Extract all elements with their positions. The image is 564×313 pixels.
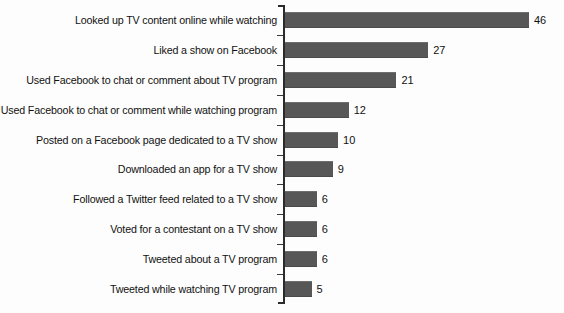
bar-row: Used Facebook to chat or comment about T… (0, 65, 564, 95)
bar-group: 5 (285, 281, 323, 297)
bar (285, 221, 317, 237)
bar (285, 251, 317, 267)
bar-row: Tweeted about a TV program6 (0, 244, 564, 274)
bar-group: 9 (285, 161, 344, 177)
bar (285, 281, 312, 297)
category-label: Voted for a contestant on a TV show (0, 223, 281, 235)
category-label: Posted on a Facebook page dedicated to a… (0, 134, 281, 146)
category-label: Tweeted about a TV program (0, 253, 281, 265)
bar-group: 12 (285, 102, 366, 118)
bar-value-label: 10 (343, 134, 355, 146)
bar (285, 161, 333, 177)
bar-value-label: 12 (354, 104, 366, 116)
bar-row: Downloaded an app for a TV show9 (0, 155, 564, 185)
bar-row: Followed a Twitter feed related to a TV … (0, 184, 564, 214)
bar-row: Voted for a contestant on a TV show6 (0, 214, 564, 244)
bar (285, 102, 349, 118)
bar-value-label: 21 (401, 74, 413, 86)
category-label: Tweeted while watching TV program (0, 283, 281, 295)
bar-value-label: 27 (433, 44, 445, 56)
bar-group: 46 (285, 12, 546, 28)
bar-group: 21 (285, 72, 414, 88)
bar-value-label: 46 (534, 14, 546, 26)
bar-value-label: 9 (338, 163, 344, 175)
bar-value-label: 6 (322, 223, 328, 235)
bar-row: Liked a show on Facebook27 (0, 35, 564, 65)
bar (285, 191, 317, 207)
bar (285, 72, 396, 88)
bar-value-label: 6 (322, 253, 328, 265)
bar-group: 6 (285, 221, 328, 237)
bar-group: 6 (285, 251, 328, 267)
bar-chart: Looked up TV content online while watchi… (0, 0, 564, 313)
bar-row: Tweeted while watching TV program5 (0, 274, 564, 304)
bar (285, 132, 338, 148)
category-label: Downloaded an app for a TV show (0, 163, 281, 175)
bar-group: 27 (285, 42, 445, 58)
bar-row: Looked up TV content online while watchi… (0, 5, 564, 35)
category-label: Used Facebook to chat or comment about T… (0, 74, 281, 86)
bar (285, 12, 529, 28)
category-label: Used Facebook to chat or comment while w… (0, 104, 281, 116)
category-label: Followed a Twitter feed related to a TV … (0, 193, 281, 205)
bar (285, 42, 428, 58)
bar-value-label: 6 (322, 193, 328, 205)
category-label: Liked a show on Facebook (0, 44, 281, 56)
bar-value-label: 5 (317, 283, 323, 295)
bar-row: Posted on a Facebook page dedicated to a… (0, 125, 564, 155)
bar-row: Used Facebook to chat or comment while w… (0, 95, 564, 125)
bar-group: 10 (285, 132, 355, 148)
category-label: Looked up TV content online while watchi… (0, 14, 281, 26)
bar-group: 6 (285, 191, 328, 207)
